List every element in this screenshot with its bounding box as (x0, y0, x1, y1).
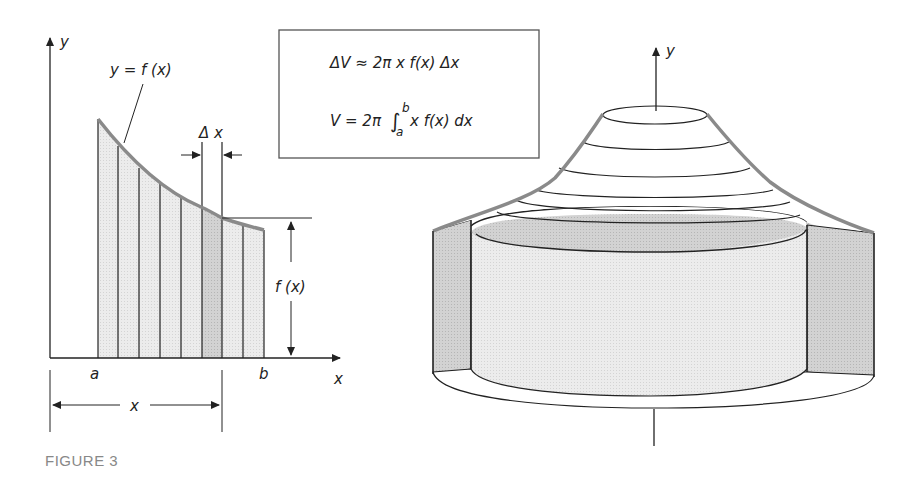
y-axis-label: y (59, 33, 70, 51)
outer-right-wall-face (807, 225, 874, 377)
integral-upper-limit: b (402, 101, 410, 115)
distance-label: x (129, 397, 139, 415)
highlighted-strip (202, 208, 222, 358)
height-label: f (x) (275, 278, 306, 296)
b-label: b (259, 365, 269, 383)
formula-volume-integral-prefix: V = 2π (330, 112, 382, 130)
formula-volume-integral-suffix: x f(x) dx (409, 112, 473, 130)
curve-label: y = f (x) (109, 61, 172, 79)
formula-volume-element: ΔV ≈ 2π x f(x) Δx (329, 54, 460, 72)
outer-left-wall (433, 220, 471, 374)
curve-label-leader (124, 84, 143, 143)
a-label: a (90, 365, 99, 383)
delta-x-label: Δ x (198, 124, 223, 142)
figure-caption: FIGURE 3 (45, 452, 118, 469)
shell-method-figure: y x y = f (x) Δ x f (x) a b x ΔV ≈ 2π x … (0, 0, 911, 493)
formula-box: ΔV ≈ 2π x f(x) Δx V = 2π ∫ b a x f(x) dx (279, 30, 539, 158)
rotation-axis-label: y (665, 42, 676, 60)
integral-lower-limit: a (396, 125, 403, 139)
x-axis-label: x (333, 370, 343, 388)
